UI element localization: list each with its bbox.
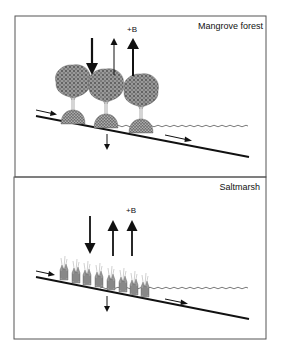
saltmarsh-grass-icon (83, 261, 91, 285)
mangrove-tree-icon (123, 74, 158, 133)
panel-mangrove (15, 16, 266, 177)
water-line (100, 125, 248, 127)
inflow-arrow-icon (36, 271, 55, 277)
biomass-up-arrow-icon (127, 220, 138, 256)
biomass-label: +B (126, 206, 136, 215)
saltmarsh-grass-icon (141, 273, 149, 297)
mangrove-tree-icon (88, 69, 123, 128)
figure: Mangrove forest +B Saltmarsh +B (0, 0, 281, 354)
inflow-arrow-icon (36, 110, 57, 116)
panel-saltmarsh (14, 177, 266, 339)
mangrove-tree-icon (55, 65, 90, 124)
saltmarsh-grass-icon (107, 266, 115, 290)
belowground-down-arrow-icon (104, 296, 110, 312)
saltmarsh-grass-icon (72, 259, 80, 283)
deposition-down-arrow-icon (86, 38, 98, 75)
panel-title-mangrove: Mangrove forest (198, 21, 263, 31)
biomass-label: +B (127, 25, 137, 34)
saltmarsh-grass-icon (60, 256, 68, 280)
saltmarsh-grass-icon (119, 268, 127, 292)
saltmarsh-grass-icon (130, 271, 138, 295)
deposition-down-arrow-icon (85, 216, 96, 254)
up-arrow-icon (108, 220, 119, 256)
belowground-down-arrow-icon (104, 134, 110, 150)
biomass-up-arrow-icon (127, 38, 139, 76)
panel-title-saltmarsh: Saltmarsh (219, 182, 260, 192)
saltmarsh-grass-icon (95, 263, 103, 287)
